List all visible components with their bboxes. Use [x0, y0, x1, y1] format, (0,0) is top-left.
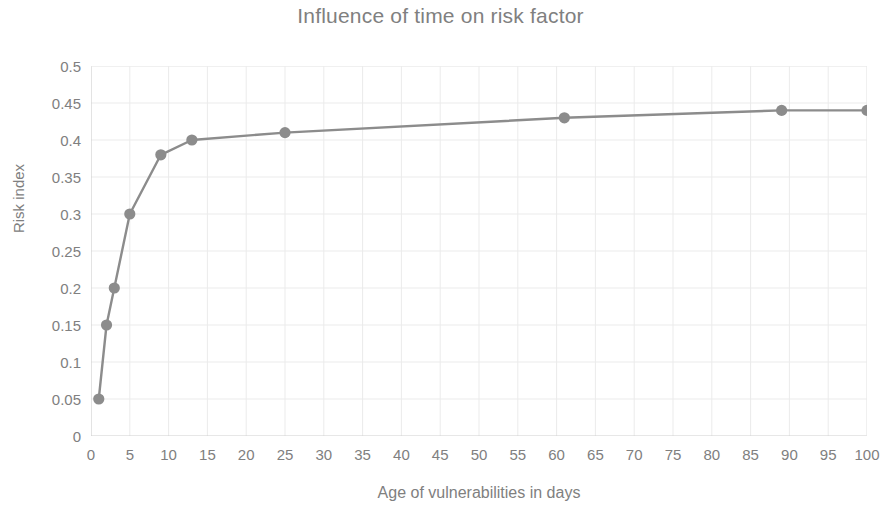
- x-axis-title: Age of vulnerabilities in days: [91, 484, 867, 502]
- data-point-marker: [559, 112, 570, 123]
- data-point-marker: [279, 127, 290, 138]
- y-axis-tick-label: 0.05: [21, 392, 81, 407]
- y-axis-tick-label: 0.4: [21, 133, 81, 148]
- x-axis-tick-label: 10: [149, 446, 189, 463]
- data-point-marker: [109, 282, 120, 293]
- data-point-marker: [93, 393, 104, 404]
- chart-title: Influence of time on risk factor: [0, 4, 881, 28]
- x-axis-tick-label: 35: [343, 446, 383, 463]
- y-axis-tick-label: 0.3: [21, 207, 81, 222]
- x-axis-tick-label: 45: [420, 446, 460, 463]
- data-point-marker: [186, 134, 197, 145]
- x-axis-tick-label: 25: [265, 446, 305, 463]
- data-point-marker: [101, 319, 112, 330]
- x-axis-tick-label: 80: [692, 446, 732, 463]
- data-point-marker: [155, 149, 166, 160]
- y-axis-tick-label: 0: [21, 429, 81, 444]
- plot-svg: [91, 66, 867, 436]
- data-series-line: [99, 110, 867, 399]
- y-axis-tick-label: 0.1: [21, 355, 81, 370]
- y-axis-tick-label: 0.45: [21, 96, 81, 111]
- y-axis-tick-label: 0.5: [21, 59, 81, 74]
- plot-area: [91, 66, 867, 436]
- x-axis-tick-label: 100: [847, 446, 881, 463]
- x-axis-tick-label: 20: [226, 446, 266, 463]
- x-axis-tick-label: 40: [381, 446, 421, 463]
- x-axis-tick-label: 90: [769, 446, 809, 463]
- data-point-marker: [124, 208, 135, 219]
- x-axis-tick-label: 65: [575, 446, 615, 463]
- y-axis-tick-label: 0.2: [21, 281, 81, 296]
- data-point-marker: [776, 105, 787, 116]
- x-axis-tick-label: 95: [808, 446, 848, 463]
- x-axis-tick-label: 30: [304, 446, 344, 463]
- x-axis-tick-label: 85: [731, 446, 771, 463]
- x-axis-tick-label: 75: [653, 446, 693, 463]
- x-axis-tick-label: 55: [498, 446, 538, 463]
- y-axis-tick-label: 0.15: [21, 318, 81, 333]
- x-axis-tick-label: 15: [187, 446, 227, 463]
- x-axis-tick-label: 5: [110, 446, 150, 463]
- x-axis-tick-label: 50: [459, 446, 499, 463]
- y-axis-tick-label: 0.25: [21, 244, 81, 259]
- series-polyline: [99, 110, 867, 399]
- x-axis-tick-label: 60: [537, 446, 577, 463]
- chart-container: Influence of time on risk factor Risk in…: [0, 0, 881, 516]
- data-point-marker: [861, 105, 867, 116]
- x-axis-tick-label: 0: [71, 446, 111, 463]
- x-axis-tick-label: 70: [614, 446, 654, 463]
- y-axis-tick-label: 0.35: [21, 170, 81, 185]
